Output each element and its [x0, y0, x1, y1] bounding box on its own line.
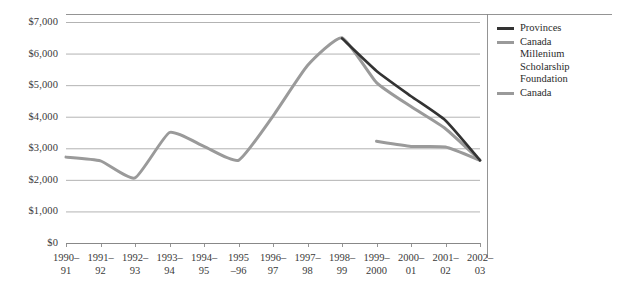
legend-label: Canada	[520, 87, 615, 100]
chart-legend: ProvincesCanada Millenium Scholarship Fo…	[497, 22, 615, 101]
y-axis-label: $2,000	[2, 175, 58, 186]
legend-swatch-icon	[497, 41, 514, 44]
gridlines	[66, 23, 480, 244]
chart-figure: $7,000$6,000$5,000$4,000$3,000$2,000$1,0…	[0, 0, 619, 297]
y-axis-label: $5,000	[2, 80, 58, 91]
x-axis-label: 2002– 03	[458, 252, 502, 277]
y-axis-label: $3,000	[2, 143, 58, 154]
series-lines	[66, 38, 480, 178]
legend-item: Canada Millenium Scholarship Foundation	[497, 36, 615, 86]
legend-label: Provinces	[520, 22, 615, 35]
legend-swatch-icon	[497, 27, 514, 30]
legend-swatch-icon	[497, 92, 514, 95]
y-axis-label: $6,000	[2, 49, 58, 60]
y-axis-label: $7,000	[2, 17, 58, 28]
legend-item: Canada	[497, 87, 615, 100]
series-line	[66, 38, 480, 178]
y-axis-label: $4,000	[2, 112, 58, 123]
legend-item: Provinces	[497, 22, 615, 35]
legend-label: Canada Millenium Scholarship Foundation	[520, 36, 615, 86]
y-axis-label: $0	[2, 238, 58, 249]
y-axis-label: $1,000	[2, 206, 58, 217]
